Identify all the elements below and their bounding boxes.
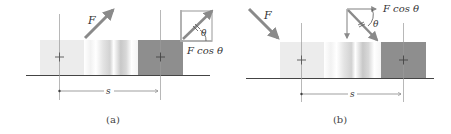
motion-blur: [84, 40, 138, 75]
work-diagram: F θ F cos θ s (a): [0, 0, 451, 134]
motion-blur: [324, 42, 381, 78]
force-label: F: [263, 9, 272, 22]
angle-label: θ: [373, 19, 379, 29]
caption-b: (b): [333, 114, 347, 125]
block-start: [40, 40, 84, 75]
displacement-label: s: [350, 89, 355, 99]
component-label: F cos θ: [186, 45, 223, 56]
panel-b: F θ F cos θ s (b): [246, 3, 434, 125]
component-label: F cos θ: [382, 3, 419, 14]
panel-a: F θ F cos θ s (a): [26, 10, 223, 125]
displacement-label: s: [106, 86, 111, 96]
caption-a: (a): [106, 114, 120, 125]
angle-label: θ: [201, 28, 207, 38]
force-label: F: [87, 14, 96, 27]
force-component-box: [181, 10, 212, 41]
